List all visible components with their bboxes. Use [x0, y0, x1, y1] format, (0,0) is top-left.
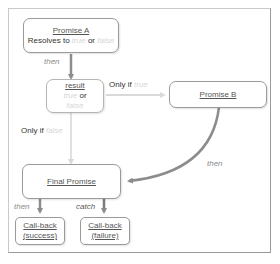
node-callback-success[interactable]: Call-back (success): [15, 217, 65, 245]
node-final-promise[interactable]: Final Promise: [22, 164, 121, 199]
promise-a-subtitle: Resolves to true or false: [28, 36, 114, 46]
node-promise-a[interactable]: Promise A Resolves to true or false: [23, 18, 119, 53]
label-result-to-final: Only if false: [21, 126, 63, 135]
edge-b-to-final: [129, 107, 219, 181]
label-result-to-b: Only if true: [109, 80, 148, 89]
label-final-to-success: then: [14, 202, 30, 211]
node-result[interactable]: result true or false: [46, 79, 104, 113]
node-promise-b[interactable]: Promise B: [169, 81, 267, 108]
final-promise-title: Final Promise: [47, 177, 96, 187]
label-final-to-failure: catch: [76, 202, 95, 211]
label-b-to-final: then: [207, 159, 223, 168]
result-line2: true or: [63, 91, 86, 101]
result-false: false: [67, 101, 84, 111]
label-a-to-result: then: [44, 57, 60, 66]
promise-a-title: Promise A: [53, 26, 89, 36]
promise-b-title: Promise B: [200, 90, 237, 100]
node-callback-failure[interactable]: Call-back (failure): [80, 217, 130, 245]
result-title: result: [65, 81, 85, 91]
